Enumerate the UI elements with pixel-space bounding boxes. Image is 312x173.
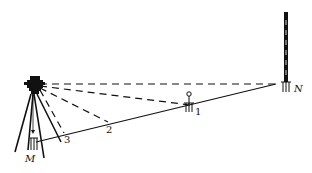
sight-line-1 bbox=[40, 86, 190, 105]
stake-M bbox=[30, 138, 38, 150]
instrument-head bbox=[24, 76, 45, 94]
label-point-2: 2 bbox=[106, 124, 112, 135]
label-point-3: 3 bbox=[64, 134, 70, 145]
label-M: M bbox=[24, 153, 36, 164]
sight-lines bbox=[40, 84, 276, 133]
stake-1 bbox=[184, 92, 194, 112]
ground-line bbox=[36, 84, 276, 142]
stake-N bbox=[281, 82, 291, 92]
diagram-canvas: M N 1 2 3 bbox=[0, 0, 312, 173]
plumb-bob bbox=[31, 130, 35, 134]
survey-diagram: M N 1 2 3 bbox=[0, 0, 312, 173]
sight-line-2 bbox=[40, 88, 108, 122]
tripod-legs bbox=[15, 94, 61, 158]
label-N: N bbox=[293, 83, 304, 94]
survey-rod bbox=[284, 12, 288, 82]
label-point-1: 1 bbox=[195, 106, 201, 117]
sight-line-3 bbox=[40, 90, 64, 133]
